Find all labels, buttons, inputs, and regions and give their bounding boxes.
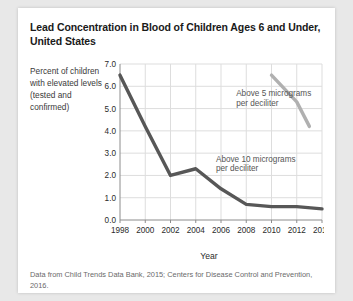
y-tick-label: 2.0 [105,171,117,180]
y-axis-label: Percent of children with elevated levels… [30,65,102,113]
series-annotation: Above 10 micrograms [216,155,296,164]
plot-area: 0.01.02.03.04.05.06.07.0 199820002002200… [94,60,324,238]
x-axis-label: Year [94,251,324,261]
y-tick-label: 1.0 [105,194,117,203]
x-tick-label: 2006 [212,226,231,235]
x-tick-label: 2002 [161,226,180,235]
y-tick-label: 6.0 [105,82,117,91]
x-tick-label: 2008 [237,226,256,235]
line-chart-svg: 0.01.02.03.04.05.06.07.0 199820002002200… [94,60,324,238]
y-tick-label: 0.0 [105,216,117,225]
y-tick-label: 7.0 [105,60,117,69]
source-note: Data from Child Trends Data Bank, 2015; … [30,270,320,291]
page-title: Lead Concentration in Blood of Children … [30,20,322,48]
series-annotation: per deciliter [216,164,259,173]
x-tick-label: 2012 [288,226,307,235]
y-tick-labels: 0.01.02.03.04.05.06.07.0 [105,60,117,225]
x-tick-label: 2014 [313,226,324,235]
y-tick-label: 5.0 [105,105,117,114]
y-tick-label: 3.0 [105,149,117,158]
x-tick-label: 1998 [111,226,130,235]
x-tick-labels: 199820002002200420062008201020122014 [111,226,324,235]
chart-card: Lead Concentration in Blood of Children … [18,8,335,293]
series-annotation: per deciliter [236,99,279,108]
series-annotation: Above 5 micrograms [236,89,311,98]
y-tick-label: 4.0 [105,127,117,136]
x-tick-label: 2004 [187,226,206,235]
x-tick-label: 2000 [136,226,155,235]
x-tick-label: 2010 [262,226,281,235]
grid-lines [120,64,322,220]
